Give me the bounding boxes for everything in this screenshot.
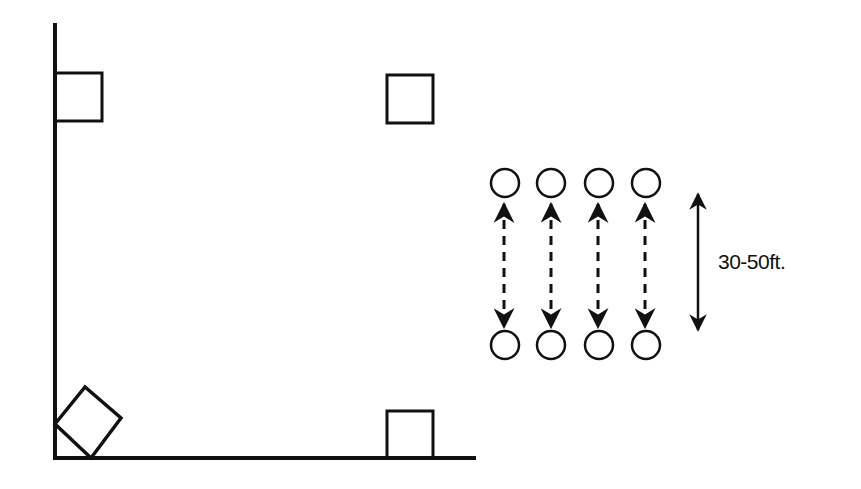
top-row-players — [491, 169, 660, 197]
player-circle — [491, 331, 519, 359]
top-right-cone — [387, 75, 433, 123]
diagram-canvas — [0, 0, 861, 489]
player-circle — [632, 331, 660, 359]
player-circle — [632, 169, 660, 197]
top-left-cone — [55, 73, 102, 121]
bottom-row-players — [491, 331, 660, 359]
player-circle — [537, 169, 565, 197]
player-circle — [585, 331, 613, 359]
bottom-right-cone — [387, 411, 433, 458]
player-circle — [585, 169, 613, 197]
passing-arrows — [504, 204, 645, 327]
player-circle — [537, 331, 565, 359]
distance-label: 30-50ft. — [718, 250, 785, 274]
bottom-left-rotated-cone — [55, 387, 121, 458]
player-circle — [491, 169, 519, 197]
